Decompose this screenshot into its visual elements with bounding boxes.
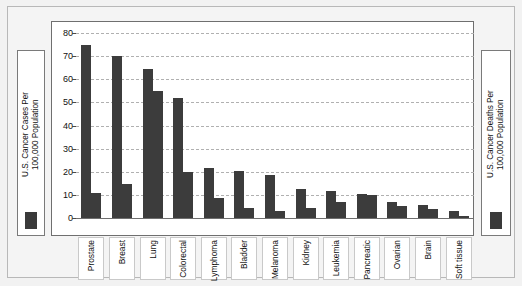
bar-group (326, 191, 346, 218)
bar-cases (265, 175, 275, 218)
bar-group (357, 194, 377, 218)
x-axis-label: Ovarian (393, 240, 401, 269)
bar-cases (357, 194, 367, 218)
bar-deaths (367, 195, 377, 218)
x-axis-label-box: Bladder (231, 237, 257, 280)
x-axis-label: Lymphoma (210, 240, 218, 281)
bar-cases (326, 191, 336, 218)
legend-cases-label: U.S. Cancer Cases Per 100,000 Population (21, 57, 41, 212)
bar-cases (173, 98, 183, 218)
bar-deaths (336, 202, 346, 218)
bar-deaths (183, 172, 193, 218)
x-axis-label-box: Leukemia (323, 237, 349, 280)
x-axis-label-box: Lymphoma (201, 237, 227, 280)
bar-deaths (306, 208, 316, 218)
chart-figure: U.S. Cancer Cases Per 100,000 Population… (0, 0, 522, 286)
x-axis-label-box: Breast (109, 237, 135, 280)
x-axis-label-box: Prostate (78, 237, 104, 280)
x-axis-label-box: Colorectal (170, 237, 196, 280)
bar-group (449, 211, 469, 218)
bar-cases (418, 205, 428, 218)
bar-cases (204, 168, 214, 218)
x-axis-label: Brain (424, 240, 432, 260)
x-axis-label-box: Lung (140, 237, 166, 280)
bar-cases (387, 202, 397, 218)
x-axis-labels: ProstateBreastLungColorectalLymphomaBlad… (76, 237, 474, 282)
bar-group (112, 56, 132, 218)
x-axis-label-box: Melanoma (262, 237, 288, 280)
legend-deaths-label: U.S. Cancer Deaths Per 100,000 Populatio… (486, 57, 506, 212)
legend-cases: U.S. Cancer Cases Per 100,000 Population (17, 50, 45, 236)
bar-group (234, 171, 254, 218)
bar-deaths (244, 208, 254, 218)
bar-group (387, 202, 407, 218)
bar-deaths (459, 216, 469, 218)
x-axis-label-box: Pancreatic (354, 237, 380, 280)
bar-deaths (153, 91, 163, 218)
x-axis-label-box: Kidney (293, 237, 319, 280)
bar-deaths (428, 209, 438, 218)
x-axis-label: Leukemia (332, 240, 340, 276)
legend-deaths: U.S. Cancer Deaths Per 100,000 Populatio… (481, 50, 511, 236)
legend-deaths-swatch (490, 212, 502, 229)
x-axis-label: Breast (118, 240, 126, 264)
y-axis: 01020304050607080 (51, 21, 76, 236)
bar-group (418, 205, 438, 218)
bars-layer (76, 21, 474, 236)
bar-group (81, 45, 101, 218)
x-axis-label: Prostate (87, 240, 95, 271)
bar-deaths (122, 184, 132, 218)
x-axis-label: Lung (148, 240, 156, 259)
bar-cases (234, 171, 244, 218)
bar-deaths (91, 193, 101, 218)
bar-group (265, 175, 285, 218)
bar-group (204, 168, 224, 218)
bar-group (173, 98, 193, 218)
bar-cases (81, 45, 91, 218)
x-axis-label-box: Soft tissue (446, 237, 472, 280)
x-axis-label-box: Ovarian (384, 237, 410, 280)
x-axis-label: Pancreatic (363, 240, 371, 280)
plot-area (76, 21, 474, 236)
bar-cases (112, 56, 122, 218)
bar-cases (296, 189, 306, 218)
legend-cases-swatch (25, 212, 37, 229)
x-axis-label-box: Brain (415, 237, 441, 280)
bar-cases (449, 211, 459, 218)
x-axis-label: Melanoma (271, 240, 279, 279)
x-axis-label: Colorectal (179, 240, 187, 278)
bar-group (296, 189, 316, 218)
bar-deaths (275, 211, 285, 218)
bar-group (143, 69, 163, 218)
bar-cases (143, 69, 153, 218)
bar-deaths (397, 206, 407, 218)
x-axis-label: Kidney (301, 240, 309, 266)
x-axis-label: Bladder (240, 240, 248, 269)
bar-deaths (214, 198, 224, 218)
x-axis-label: Soft tissue (454, 240, 462, 279)
